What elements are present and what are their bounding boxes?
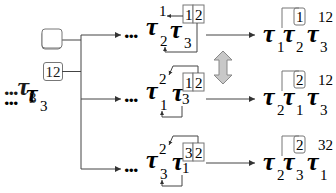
superscript: 1 (159, 3, 167, 19)
root-ellipsis: ... (4, 75, 18, 100)
boxed-sup: 2 (296, 72, 304, 88)
subscript: 3 (184, 35, 192, 51)
subscript: 1 (182, 160, 190, 176)
boxed-sup-a: 3 (185, 145, 193, 161)
tau: τ (263, 19, 276, 48)
ellipsis: ... (124, 152, 138, 177)
tau: τ (170, 15, 183, 44)
branch-3-left-term: ... τ 3 2 τ 1 3 2 (124, 136, 204, 186)
subscript: 1 (320, 167, 328, 183)
root-term-html: ...τ3 (4, 72, 37, 102)
branch-3-right-term: τ 2 τ 3 2 τ 1 32 (263, 136, 333, 183)
root-connector (62, 71, 81, 72)
boxed-sup: 1 (296, 9, 304, 25)
boxed-sup-a: 1 (185, 7, 193, 23)
terms-layer: ... τ 2 1 τ 3 1 2 τ 1 τ 2 1 τ 3 12 ... τ… (0, 0, 336, 193)
tau: τ (146, 76, 159, 105)
double-vertical-arrow-icon (214, 51, 232, 84)
branch-2-left-term: ... τ 1 2 τ 3 1 2 (124, 66, 204, 117)
subscript: 2 (296, 39, 304, 55)
root-superscript-label: 12 (43, 62, 63, 81)
subscript: 3 (296, 167, 304, 183)
tau: τ (263, 82, 276, 111)
ellipsis: ... (124, 82, 138, 107)
ellipsis: ... (124, 18, 138, 43)
tau: τ (263, 147, 276, 176)
subscript: 3 (160, 166, 168, 182)
tau: τ (146, 145, 159, 174)
subscript: 3 (320, 102, 328, 118)
root-subscript: 3 (29, 90, 37, 106)
boxed-sup-b: 2 (195, 7, 203, 23)
branch-1-left-term: ... τ 2 1 τ 3 1 2 (124, 3, 204, 52)
boxed-sup-b: 2 (195, 75, 203, 91)
root-tau: τ (18, 72, 30, 101)
superscript: 12 (318, 9, 333, 25)
branch-2-right-term: τ 2 τ 1 2 τ 3 12 (263, 71, 333, 118)
superscript: 32 (318, 137, 333, 153)
subscript: 3 (182, 91, 190, 107)
branch-1-right-term: τ 1 τ 2 1 τ 3 12 (263, 8, 333, 55)
boxed-sup: 2 (296, 137, 304, 153)
superscript: 12 (318, 72, 333, 88)
root-superscript (42, 29, 62, 48)
superscript: 2 (159, 71, 167, 87)
boxed-sup-a: 1 (185, 75, 193, 91)
tau: τ (146, 12, 159, 41)
superscript: 2 (159, 141, 167, 157)
subscript: 3 (320, 39, 328, 55)
subscript: 2 (160, 33, 168, 49)
root-boxed-sup: 12 (46, 64, 61, 80)
subscript: 1 (296, 102, 304, 118)
subscript: 1 (160, 97, 168, 113)
boxed-sup-b: 2 (195, 145, 203, 161)
